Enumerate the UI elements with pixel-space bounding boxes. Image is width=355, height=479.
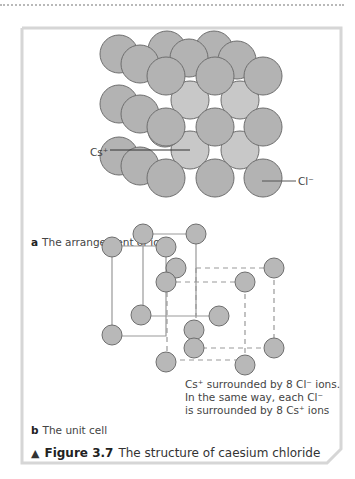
note-line-1: Cs⁺ surrounded by 8 Cl⁻ ions.	[185, 378, 340, 391]
note-line-3: is surrounded by 8 Cs⁺ ions	[185, 404, 340, 417]
figure-title: The structure of caesium chloride	[118, 446, 320, 460]
part-b-caption: The unit cell	[43, 424, 108, 436]
note-line-2: In the same way, each Cl⁻	[185, 391, 340, 404]
caption-part-b: bThe unit cell	[31, 424, 107, 436]
triangle-marker-icon: ▲	[31, 447, 39, 460]
figure-number: Figure 3.7	[44, 446, 113, 460]
unit-cell-diagram	[0, 0, 355, 420]
figure-caption: ▲Figure 3.7The structure of caesium chlo…	[31, 446, 320, 460]
part-b-letter: b	[31, 424, 39, 436]
unit-cell-note: Cs⁺ surrounded by 8 Cl⁻ ions. In the sam…	[185, 378, 340, 417]
